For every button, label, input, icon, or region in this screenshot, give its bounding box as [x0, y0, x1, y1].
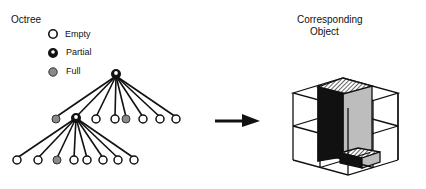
octree-diagram — [0, 0, 426, 189]
tree-level2 — [13, 156, 138, 164]
tree-node-empty — [130, 156, 138, 164]
tree-node-empty — [156, 115, 164, 123]
tree-node-empty — [172, 115, 180, 123]
partial-node-icon — [49, 49, 57, 57]
tree-node-root-partial — [112, 70, 121, 79]
tree-edges-level1 — [56, 76, 176, 117]
tree-node-partial — [72, 114, 81, 123]
tree-node-empty — [92, 115, 100, 123]
tree-node-empty — [139, 115, 147, 123]
right-arrow-icon — [215, 114, 260, 127]
tree-node-empty — [114, 156, 122, 164]
tree-node-empty — [111, 115, 119, 123]
tree-node-empty — [34, 156, 42, 164]
tree-node-full — [52, 115, 60, 123]
tree-node-empty — [13, 156, 21, 164]
full-node-icon — [49, 68, 57, 76]
tree-node-empty — [83, 156, 91, 164]
tree-node-empty — [70, 156, 78, 164]
tree-edges-level2 — [17, 118, 134, 158]
tree-node-full — [122, 115, 130, 123]
tree-node-full — [53, 156, 61, 164]
tree-node-empty — [99, 156, 107, 164]
octree-object-cube — [293, 78, 398, 175]
empty-node-icon — [49, 30, 57, 38]
